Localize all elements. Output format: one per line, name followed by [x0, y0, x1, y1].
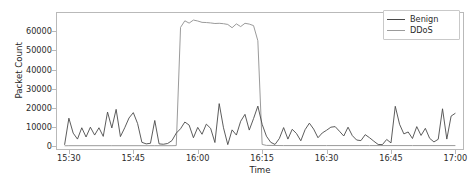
y-tick-mark [52, 108, 56, 109]
y-tick-mark [52, 31, 56, 32]
y-tick-label: 10000 [0, 123, 52, 131]
legend-label-ddos: DDoS [410, 26, 433, 34]
y-tick-label: 20000 [0, 104, 52, 112]
y-tick-mark [52, 89, 56, 90]
chart-figure: 0100002000030000400005000060000 15:3015:… [0, 0, 476, 184]
y-tick-mark [52, 50, 56, 51]
x-tick-label: 15:30 [39, 154, 99, 162]
x-tick-label: 15:45 [103, 154, 163, 162]
y-tick-mark [52, 127, 56, 128]
y-tick-mark [52, 70, 56, 71]
x-tick-label: 16:45 [361, 154, 421, 162]
x-tick-label: 17:00 [425, 154, 476, 162]
y-tick-label: 60000 [0, 27, 52, 35]
legend-label-benign: Benign [410, 15, 439, 23]
y-tick-label: 30000 [0, 85, 52, 93]
legend-item-ddos: DDoS [387, 25, 455, 36]
legend-swatch-benign [387, 19, 405, 20]
x-axis-label: Time [210, 166, 310, 175]
y-axis-label: Packet Count [15, 20, 24, 120]
legend-item-benign: Benign [387, 14, 455, 25]
x-tick-label: 16:15 [232, 154, 292, 162]
legend-swatch-ddos [387, 30, 405, 31]
y-tick-label: 50000 [0, 46, 52, 54]
y-tick-label: 40000 [0, 66, 52, 74]
y-tick-mark [52, 146, 56, 147]
y-tick-label: 0 [0, 142, 52, 150]
x-tick-label: 16:00 [168, 154, 228, 162]
x-tick-label: 16:30 [297, 154, 357, 162]
chart-legend: Benign DDoS [383, 10, 460, 40]
